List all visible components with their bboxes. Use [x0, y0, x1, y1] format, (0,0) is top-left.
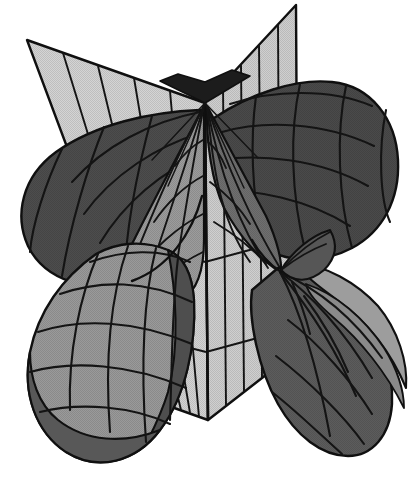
figure-canvas [0, 0, 409, 482]
surface-illustration [0, 0, 409, 482]
